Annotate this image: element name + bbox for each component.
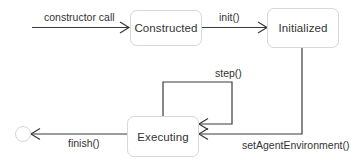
label-finish: finish() xyxy=(68,137,100,149)
state-executing-label: Executing xyxy=(137,131,188,143)
edge-set-agent-environment xyxy=(199,48,302,140)
edge-constructor-call xyxy=(32,22,129,33)
state-constructed-label: Constructed xyxy=(134,22,197,34)
state-initialized: Initialized xyxy=(267,8,339,48)
state-diagram: Constructed Initialized Executing constr… xyxy=(0,0,363,160)
label-init: init() xyxy=(219,11,239,23)
final-state-circle xyxy=(15,126,31,142)
label-step: step() xyxy=(215,67,242,79)
state-executing: Executing xyxy=(127,116,199,157)
state-constructed: Constructed xyxy=(130,10,202,46)
label-constructor-call: constructor call xyxy=(44,11,115,23)
label-set-agent-environment: setAgentEnvironment() xyxy=(242,139,349,151)
state-initialized-label: Initialized xyxy=(278,22,327,34)
edge-init xyxy=(202,22,267,33)
